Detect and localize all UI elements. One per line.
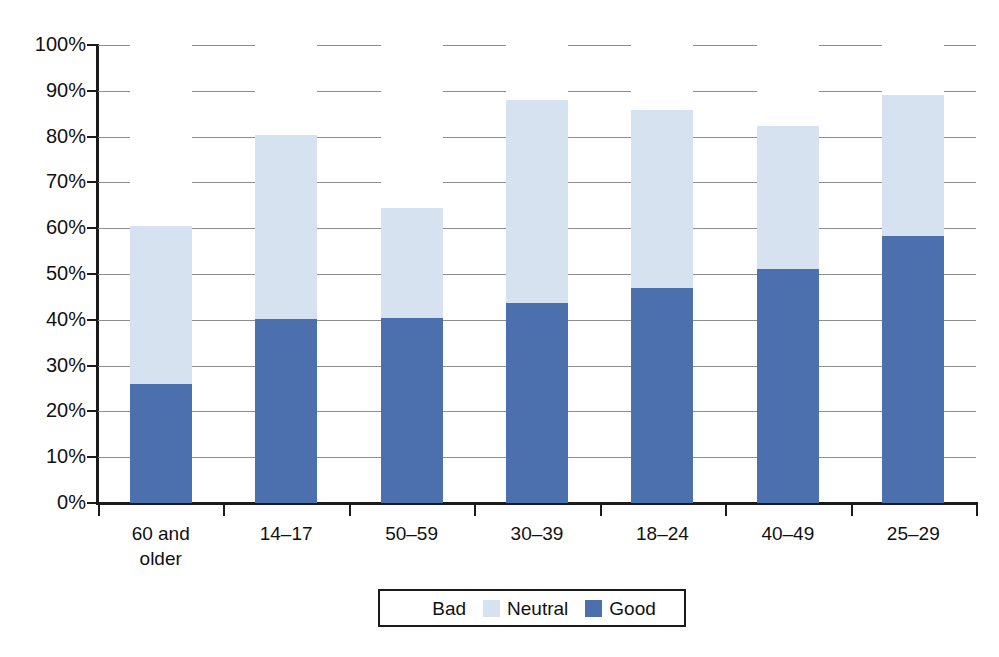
y-tick-label: 30% (14, 355, 86, 375)
x-tick-mark (600, 503, 602, 516)
x-tick-mark (976, 503, 978, 516)
x-tick-label-line2: older (81, 546, 241, 571)
legend-item-bad[interactable]: Bad (408, 599, 466, 618)
y-tick-label: 70% (14, 171, 86, 191)
bar-segment-bad[interactable] (255, 45, 317, 135)
bar-segment-bad[interactable] (381, 45, 443, 208)
bar-segment-good[interactable] (757, 269, 819, 503)
bar-group[interactable] (882, 45, 944, 503)
y-tick-label: 50% (14, 263, 86, 283)
bar-group[interactable] (631, 45, 693, 503)
bar-segment-good[interactable] (631, 288, 693, 503)
bar-segment-neutral[interactable] (255, 135, 317, 319)
gridline-0 (98, 503, 976, 505)
bar-segment-neutral[interactable] (381, 208, 443, 318)
legend-swatch-neutral-icon (483, 600, 500, 617)
x-tick-mark (349, 503, 351, 516)
legend-item-good[interactable]: Good (585, 599, 655, 618)
x-tick-mark (98, 503, 100, 516)
bar-segment-bad[interactable] (882, 45, 944, 95)
bar-segment-neutral[interactable] (631, 110, 693, 288)
bar-segment-good[interactable] (130, 384, 192, 503)
legend-item-neutral[interactable]: Neutral (483, 599, 568, 618)
x-tick-mark (474, 503, 476, 516)
legend-label-bad: Bad (432, 599, 466, 618)
chart-legend: Bad Neutral Good (378, 589, 686, 627)
y-tick-label: 100% (14, 34, 86, 54)
y-tick-label: 60% (14, 217, 86, 237)
bar-segment-neutral[interactable] (757, 126, 819, 270)
x-tick-label-line1: 25–29 (833, 521, 993, 546)
y-tick-label: 10% (14, 446, 86, 466)
bar-group[interactable] (757, 45, 819, 503)
bar-segment-bad[interactable] (506, 45, 568, 100)
legend-label-neutral: Neutral (507, 599, 568, 618)
y-tick-label: 90% (14, 80, 86, 100)
bar-group[interactable] (381, 45, 443, 503)
y-tick-label: 80% (14, 126, 86, 146)
bar-segment-good[interactable] (882, 236, 944, 503)
x-tick-mark (851, 503, 853, 516)
bar-group[interactable] (506, 45, 568, 503)
y-tick-label: 0% (14, 492, 86, 512)
bar-segment-bad[interactable] (130, 45, 192, 226)
legend-label-good: Good (609, 599, 655, 618)
bar-segment-bad[interactable] (631, 45, 693, 110)
x-tick-mark (223, 503, 225, 516)
bar-segment-good[interactable] (255, 319, 317, 503)
legend-swatch-good-icon (585, 600, 602, 617)
bar-segment-neutral[interactable] (882, 95, 944, 236)
bar-segment-neutral[interactable] (506, 100, 568, 303)
legend-swatch-bad-icon (408, 600, 425, 617)
y-tick-label: 40% (14, 309, 86, 329)
x-tick-mark (725, 503, 727, 516)
x-tick-label: 25–29 (833, 521, 993, 546)
bar-segment-good[interactable] (506, 303, 568, 503)
bar-segment-bad[interactable] (757, 45, 819, 126)
y-tick-label: 20% (14, 400, 86, 420)
bar-segment-good[interactable] (381, 318, 443, 503)
bar-group[interactable] (130, 45, 192, 503)
bar-segment-neutral[interactable] (130, 226, 192, 384)
bar-group[interactable] (255, 45, 317, 503)
plot-area (98, 45, 976, 503)
stacked-bar-chart: 100%90%80%70%60%50%40%30%20%10%0% 60 and… (0, 0, 999, 657)
